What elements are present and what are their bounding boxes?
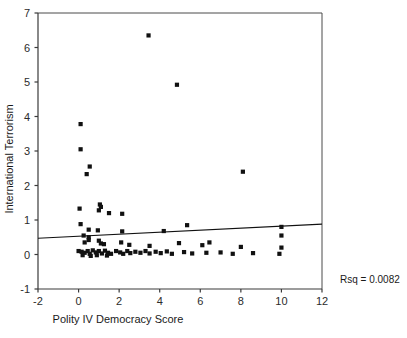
data-point-marker [147, 251, 151, 255]
x-tick-label: 0 [76, 295, 82, 307]
data-point-marker [207, 240, 211, 244]
data-point-marker [165, 249, 169, 253]
data-point-marker [241, 170, 245, 174]
data-point-marker [133, 250, 137, 254]
data-point-marker [279, 225, 283, 229]
y-tick-label: 0 [24, 249, 30, 261]
data-point-marker [79, 147, 83, 151]
x-axis-title: Polity IV Democracy Score [53, 313, 184, 325]
y-tick-label: 2 [24, 180, 30, 192]
rsq-annotation: Rsq = 0.0082 [340, 274, 400, 285]
data-point-marker [239, 245, 243, 249]
data-point-marker [170, 252, 174, 256]
data-point-marker [159, 251, 163, 255]
data-point-marker [204, 251, 208, 255]
data-point-marker [154, 250, 158, 254]
data-point-marker [277, 252, 281, 256]
data-point-marker [87, 228, 91, 232]
data-point-marker [87, 238, 91, 242]
data-point-marker [182, 250, 186, 254]
data-point-marker [121, 252, 125, 256]
data-point-marker [251, 251, 255, 255]
data-point-marker [105, 253, 109, 257]
data-point-marker [200, 243, 204, 247]
data-point-marker [97, 208, 101, 212]
data-point-marker [143, 249, 147, 253]
x-tick-label: -2 [33, 295, 43, 307]
x-tick-label: 6 [197, 295, 203, 307]
x-tick-label: 12 [316, 295, 328, 307]
y-tick-label: 5 [24, 76, 30, 88]
data-point-marker [107, 211, 111, 215]
data-point-marker [83, 240, 87, 244]
data-point-marker [120, 212, 124, 216]
data-point-marker [231, 252, 235, 256]
data-point-marker [102, 242, 106, 246]
data-point-marker [218, 250, 222, 254]
data-point-marker [162, 229, 166, 233]
data-point-marker [89, 254, 93, 258]
data-point-marker [95, 253, 99, 257]
data-point-marker [85, 172, 89, 176]
data-point-marker [120, 229, 124, 233]
data-point-marker [127, 243, 131, 247]
data-point-marker [146, 33, 150, 37]
y-axis-title: International Terrorism [3, 104, 15, 213]
x-tick-label: 8 [238, 295, 244, 307]
data-point-marker [79, 122, 83, 126]
data-point-marker [81, 253, 85, 257]
x-tick-label: 10 [275, 295, 287, 307]
data-point-marker [177, 241, 181, 245]
y-tick-label: 6 [24, 42, 30, 54]
data-point-marker [119, 240, 123, 244]
x-tick-label: 2 [116, 295, 122, 307]
data-point-marker [128, 251, 132, 255]
data-point-marker [279, 246, 283, 250]
y-tick-label: -1 [20, 283, 30, 295]
data-point-marker [147, 244, 151, 248]
data-point-marker [82, 233, 86, 237]
data-point-marker [114, 249, 118, 253]
data-point-marker [96, 228, 100, 232]
data-point-marker [175, 83, 179, 87]
data-point-marker [185, 223, 189, 227]
y-tick-label: 4 [24, 111, 30, 123]
data-point-marker [88, 164, 92, 168]
x-tick-label: 4 [157, 295, 163, 307]
scatter-chart-figure: -101234567-2024681012Polity IV Democracy… [0, 0, 407, 338]
data-point-marker [138, 251, 142, 255]
data-point-marker [190, 251, 194, 255]
y-tick-label: 7 [24, 7, 30, 19]
data-point-marker [109, 252, 113, 256]
data-point-marker [279, 233, 283, 237]
chart-canvas: -101234567-2024681012Polity IV Democracy… [0, 0, 407, 338]
y-tick-label: 1 [24, 214, 30, 226]
y-tick-label: 3 [24, 145, 30, 157]
data-point-marker [77, 207, 81, 211]
data-point-marker [79, 222, 83, 226]
